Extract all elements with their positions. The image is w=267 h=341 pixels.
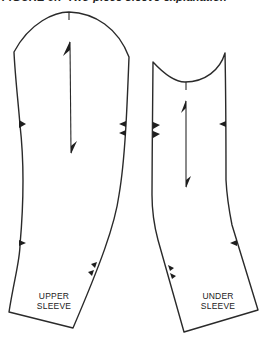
upper-sleeve-outline	[9, 12, 129, 328]
under-notch-front-1	[153, 122, 160, 129]
under-notch-lower-front-2	[170, 273, 176, 279]
under-grainline-arrow	[181, 100, 191, 188]
under-notch-lower-back	[230, 240, 237, 246]
upper-sleeve-piece: UPPER SLEEVE	[9, 12, 129, 328]
under-notch-front-2	[153, 131, 160, 138]
upper-notch-lower-back-2	[88, 270, 94, 276]
upper-grainline-arrow	[63, 41, 77, 154]
sleeve-pattern-diagram: UPPER SLEEVE UNDER SLEEVE	[0, 0, 267, 341]
under-notch-lower-front-1	[168, 265, 174, 271]
under-sleeve-label-line1: UNDER	[202, 291, 233, 301]
under-notch-back	[219, 121, 226, 127]
under-sleeve-piece: UNDER SLEEVE	[152, 53, 258, 332]
upper-notch-lower-front	[19, 240, 26, 246]
upper-notch-front	[19, 120, 26, 128]
under-sleeve-label-line2: SLEEVE	[201, 301, 235, 311]
upper-sleeve-label-line2: SLEEVE	[37, 301, 71, 311]
upper-sleeve-label-line1: UPPER	[39, 291, 69, 301]
upper-notch-back-2	[119, 130, 126, 136]
upper-notch-lower-back-1	[91, 262, 97, 268]
upper-notch-back-1	[119, 121, 126, 127]
